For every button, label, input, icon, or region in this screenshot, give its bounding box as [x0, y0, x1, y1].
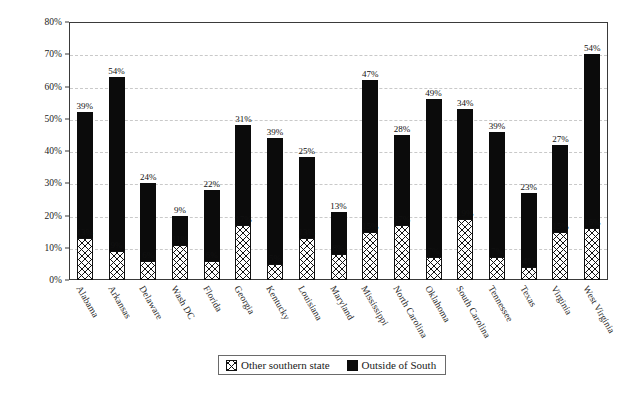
- y-axis-tick-label: 70%: [0, 49, 62, 59]
- bar-segment-outside-of-south[interactable]: [394, 135, 410, 225]
- chart-legend: Other southern state Outside of South: [218, 355, 446, 375]
- bar-group[interactable]: 13%39%: [77, 22, 93, 280]
- legend-item-other-southern-state: Other southern state: [226, 359, 330, 371]
- x-axis-tick-label: Maryland: [328, 284, 356, 322]
- bar-group[interactable]: 15%27%: [552, 22, 568, 280]
- bar-value-label-other-southern-state: 9%: [111, 240, 123, 250]
- x-axis-tick-label: Virginia: [550, 284, 575, 316]
- bar-group[interactable]: 15%47%: [362, 22, 378, 280]
- bar-value-label-outside-of-south: 24%: [140, 172, 157, 182]
- bar-segment-outside-of-south[interactable]: [267, 138, 283, 264]
- bar-segment-other-southern-state[interactable]: [426, 257, 442, 280]
- x-axis-tick-label: Mississippi: [360, 284, 391, 327]
- bar-group[interactable]: 6%22%: [204, 22, 220, 280]
- y-axis-tick-label: 10%: [0, 243, 62, 253]
- bar-segment-other-southern-state[interactable]: [362, 232, 378, 280]
- bar-group[interactable]: 5%39%: [267, 22, 283, 280]
- y-axis-tick-label: 20%: [0, 211, 62, 221]
- y-axis-tick-label: 50%: [0, 114, 62, 124]
- bar-segment-other-southern-state[interactable]: [521, 267, 537, 280]
- bar-segment-other-southern-state[interactable]: [457, 219, 473, 280]
- bar-group[interactable]: 8%13%: [331, 22, 347, 280]
- bar-group[interactable]: 19%34%: [457, 22, 473, 280]
- stacked-bar-chart: 0%10%20%30%40%50%60%70%80% 13%39%9%54%6%…: [0, 0, 634, 400]
- bar-value-label-outside-of-south: 39%: [77, 101, 94, 111]
- bar-segment-other-southern-state[interactable]: [394, 225, 410, 280]
- bar-value-label-outside-of-south: 39%: [489, 121, 506, 131]
- bar-value-label-other-southern-state: 5%: [269, 253, 281, 263]
- bar-value-label-outside-of-south: 25%: [299, 146, 316, 156]
- bar-value-label-outside-of-south: 54%: [584, 43, 601, 53]
- bar-segment-other-southern-state[interactable]: [552, 232, 568, 280]
- bar-group[interactable]: 7%39%: [489, 22, 505, 280]
- bar-value-label-outside-of-south: 22%: [203, 179, 220, 189]
- bar-segment-outside-of-south[interactable]: [235, 125, 251, 225]
- bar-segment-other-southern-state[interactable]: [489, 257, 505, 280]
- legend-item-outside-of-south: Outside of South: [347, 359, 437, 371]
- bar-group[interactable]: 6%24%: [140, 22, 156, 280]
- x-axis-tick-label: Georgia: [233, 284, 257, 316]
- bar-group[interactable]: 11%9%: [172, 22, 188, 280]
- bar-segment-outside-of-south[interactable]: [77, 112, 93, 238]
- bar-value-label-outside-of-south: 47%: [362, 69, 379, 79]
- y-axis-tick-label: 30%: [0, 178, 62, 188]
- bar-value-label-outside-of-south: 54%: [108, 66, 125, 76]
- crosshatch-swatch-icon: [226, 360, 237, 371]
- bar-value-label-other-southern-state: 11%: [172, 234, 188, 244]
- bar-segment-outside-of-south[interactable]: [299, 157, 315, 238]
- bars-layer: 13%39%9%54%6%24%11%9%6%22%17%31%5%39%13%…: [69, 22, 608, 280]
- bar-segment-other-southern-state[interactable]: [584, 228, 600, 280]
- bar-value-label-other-southern-state: 4%: [523, 256, 535, 266]
- bar-value-label-other-southern-state: 17%: [394, 214, 411, 224]
- bar-group[interactable]: 4%23%: [521, 22, 537, 280]
- bar-value-label-outside-of-south: 34%: [457, 98, 474, 108]
- bar-value-label-outside-of-south: 23%: [520, 182, 537, 192]
- x-axis-tick-label: Florida: [201, 284, 224, 313]
- black-swatch-icon: [347, 360, 358, 371]
- bar-segment-outside-of-south[interactable]: [552, 145, 568, 232]
- x-axis-tick-label: West Virginia: [581, 284, 616, 335]
- bar-segment-other-southern-state[interactable]: [299, 238, 315, 280]
- bar-value-label-outside-of-south: 39%: [267, 127, 284, 137]
- y-axis-tick-label: 80%: [0, 17, 62, 27]
- bar-segment-other-southern-state[interactable]: [109, 251, 125, 280]
- bar-value-label-other-southern-state: 6%: [142, 250, 154, 260]
- bar-segment-outside-of-south[interactable]: [584, 54, 600, 228]
- bar-value-label-other-southern-state: 16%: [584, 217, 601, 227]
- y-axis-tick-label: 60%: [0, 82, 62, 92]
- bar-segment-other-southern-state[interactable]: [77, 238, 93, 280]
- bar-segment-outside-of-south[interactable]: [457, 109, 473, 219]
- bar-group[interactable]: 16%54%: [584, 22, 600, 280]
- bar-group[interactable]: 17%28%: [394, 22, 410, 280]
- bar-segment-other-southern-state[interactable]: [235, 225, 251, 280]
- bar-segment-other-southern-state[interactable]: [331, 254, 347, 280]
- x-axis-tick-label: Louisiana: [296, 284, 324, 322]
- x-axis-tick-label: Wash DC: [169, 284, 196, 321]
- bar-segment-other-southern-state[interactable]: [140, 261, 156, 280]
- bar-value-label-outside-of-south: 27%: [552, 134, 569, 144]
- x-axis-tick-label: Arkansas: [106, 284, 133, 320]
- bar-segment-outside-of-south[interactable]: [426, 99, 442, 257]
- bar-value-label-other-southern-state: 8%: [333, 243, 345, 253]
- bar-value-label-other-southern-state: 7%: [428, 246, 440, 256]
- bar-segment-outside-of-south[interactable]: [489, 132, 505, 258]
- bar-segment-outside-of-south[interactable]: [109, 77, 125, 251]
- bar-segment-outside-of-south[interactable]: [362, 80, 378, 232]
- y-axis-tick-label: 40%: [0, 146, 62, 156]
- bar-segment-other-southern-state[interactable]: [267, 264, 283, 280]
- bar-segment-other-southern-state[interactable]: [204, 261, 220, 280]
- x-axis-tick-label: Texas: [518, 284, 538, 309]
- bar-group[interactable]: 9%54%: [109, 22, 125, 280]
- x-axis-tick-label: North Carolina: [391, 284, 429, 340]
- bar-value-label-outside-of-south: 13%: [330, 201, 347, 211]
- x-axis-tick-label: Alabama: [74, 284, 100, 319]
- bar-segment-other-southern-state[interactable]: [172, 245, 188, 280]
- y-axis-tick-label: 0%: [0, 275, 62, 285]
- x-axis-labels: AlabamaArkansasDelawareWash DCFloridaGeo…: [69, 284, 608, 354]
- bar-value-label-outside-of-south: 9%: [174, 205, 186, 215]
- bar-group[interactable]: 7%49%: [426, 22, 442, 280]
- bar-group[interactable]: 17%31%: [235, 22, 251, 280]
- bar-value-label-other-southern-state: 15%: [362, 221, 379, 231]
- bar-group[interactable]: 13%25%: [299, 22, 315, 280]
- bar-value-label-other-southern-state: 6%: [206, 250, 218, 260]
